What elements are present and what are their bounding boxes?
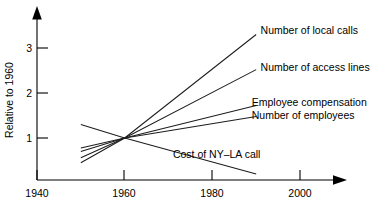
series-label-3: Number of employees	[252, 109, 355, 121]
series-label-4: Cost of NY–LA call	[173, 148, 261, 160]
y-tick-label-1: 1	[26, 132, 32, 144]
y-axis-arrow-icon	[32, 6, 42, 20]
y-tick-label-3: 3	[26, 42, 32, 54]
x-tick-label-2000: 2000	[288, 187, 312, 199]
y-tick-label-2: 2	[26, 87, 32, 99]
series-line-2	[81, 106, 256, 152]
series-labels-group: Number of local callsNumber of access li…	[173, 24, 370, 160]
x-tick-label-1980: 1980	[200, 187, 224, 199]
x-axis-arrow-icon	[333, 175, 347, 185]
chart-canvas: 3 2 1 1940 1960 1980 2000 Relative to 19…	[0, 0, 392, 206]
series-line-1	[81, 70, 256, 158]
x-ticks-group: 1940 1960 1980 2000	[25, 170, 312, 199]
series-label-0: Number of local calls	[261, 24, 358, 36]
series-label-1: Number of access lines	[261, 61, 370, 73]
y-axis-title: Relative to 1960	[3, 62, 15, 138]
series-label-2: Employee compensation	[252, 96, 367, 108]
chart-figure: 3 2 1 1940 1960 1980 2000 Relative to 19…	[0, 0, 392, 206]
x-tick-label-1940: 1940	[25, 187, 49, 199]
x-tick-label-1960: 1960	[112, 187, 136, 199]
